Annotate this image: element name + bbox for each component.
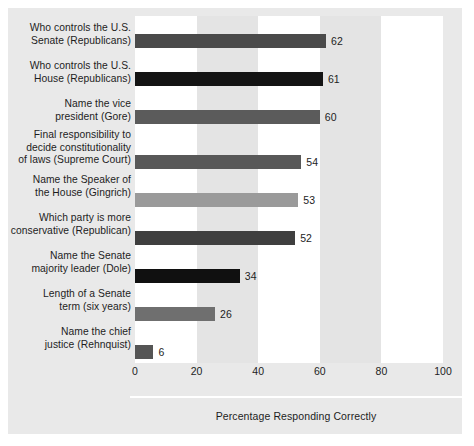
- bar-row: 61: [135, 72, 340, 86]
- bar-value-label: 53: [303, 193, 315, 207]
- category-label-line: House (Republicans): [8, 73, 131, 86]
- category-label-line: Final responsibility to: [8, 129, 131, 142]
- bar-value-label: 61: [328, 72, 340, 86]
- bar-value-label: 52: [300, 231, 312, 245]
- bar[interactable]: [135, 269, 240, 283]
- bar-row: 26: [135, 307, 232, 321]
- category-label-line: Name the Speaker of: [8, 174, 131, 187]
- category-label-line: president (Gore): [8, 111, 131, 124]
- category-label-line: decide constitutionality: [8, 142, 131, 155]
- category-label: Length of a Senate term (six years): [8, 288, 131, 313]
- x-tick: 0: [132, 365, 138, 377]
- category-labels: Who controls the U.S. Senate (Republican…: [8, 8, 131, 434]
- category-label: Which party is more conservative (Republ…: [8, 212, 131, 237]
- x-tick: 100: [434, 365, 452, 377]
- bar[interactable]: [135, 307, 215, 321]
- x-tick: 80: [376, 365, 388, 377]
- bar-row: 34: [135, 269, 257, 283]
- category-label: Final responsibility to decide constitut…: [8, 129, 131, 167]
- category-label-line: Senate (Republicans): [8, 35, 131, 48]
- category-label: Name the vice president (Gore): [8, 98, 131, 123]
- bar-row: 52: [135, 231, 312, 245]
- x-tick: 60: [314, 365, 326, 377]
- category-label-line: Who controls the U.S.: [8, 22, 131, 35]
- bar-row: 54: [135, 155, 318, 169]
- category-label: Name the chief justice (Rehnquist): [8, 326, 131, 351]
- bar-row: 53: [135, 193, 315, 207]
- bar[interactable]: [135, 193, 298, 207]
- bar[interactable]: [135, 155, 301, 169]
- category-label-line: Name the Senate: [8, 250, 131, 263]
- category-label-line: Which party is more: [8, 212, 131, 225]
- bar[interactable]: [135, 34, 326, 48]
- category-label-line: justice (Rehnquist): [8, 339, 131, 352]
- category-label-line: term (six years): [8, 301, 131, 314]
- bar-value-label: 54: [306, 155, 318, 169]
- category-label-line: Name the chief: [8, 326, 131, 339]
- bar[interactable]: [135, 72, 323, 86]
- category-label: Who controls the U.S. House (Republicans…: [8, 60, 131, 85]
- category-label: Who controls the U.S. Senate (Republican…: [8, 22, 131, 47]
- category-label-line: Length of a Senate: [8, 288, 131, 301]
- x-tick: 40: [252, 365, 264, 377]
- bar-value-label: 60: [325, 110, 337, 124]
- category-label-line: conservative (Republican): [8, 225, 131, 238]
- bar-row: 6: [135, 345, 164, 359]
- bar[interactable]: [135, 345, 153, 359]
- axis-separator-line: [130, 396, 462, 398]
- category-label-line: of laws (Supreme Court): [8, 154, 131, 167]
- bar-value-label: 6: [158, 345, 164, 359]
- bar[interactable]: [135, 110, 320, 124]
- bars-layer: 62 61 60 54 53 52 34 26: [135, 16, 462, 363]
- bar-row: 60: [135, 110, 337, 124]
- category-label-line: the House (Gingrich): [8, 187, 131, 200]
- category-label-line: Who controls the U.S.: [8, 60, 131, 73]
- x-axis-ticks: 0 20 40 60 80 100: [135, 365, 443, 383]
- category-label: Name the Senate majority leader (Dole): [8, 250, 131, 275]
- bar-value-label: 34: [245, 269, 257, 283]
- bar-value-label: 62: [331, 34, 343, 48]
- category-label-line: majority leader (Dole): [8, 263, 131, 276]
- chart-panel: Who controls the U.S. Senate (Republican…: [8, 8, 462, 434]
- category-label-line: Name the vice: [8, 98, 131, 111]
- bar-value-label: 26: [220, 307, 232, 321]
- x-axis-title: Percentage Responding Correctly: [130, 410, 462, 422]
- category-label: Name the Speaker of the House (Gingrich): [8, 174, 131, 199]
- bar[interactable]: [135, 231, 295, 245]
- x-tick: 20: [191, 365, 203, 377]
- bar-row: 62: [135, 34, 343, 48]
